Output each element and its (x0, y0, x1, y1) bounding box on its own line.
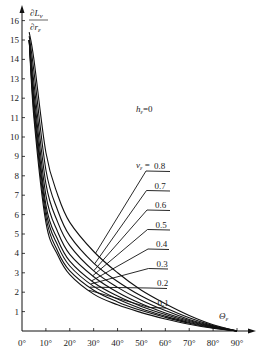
legend-label-0.8: 0.8 (154, 161, 166, 171)
leader-underline-0.1 (150, 308, 167, 309)
y-tick-label: 14 (10, 54, 20, 64)
y-axis-label-denominator: ∂rε (30, 22, 41, 34)
leader-underline-0.3 (149, 269, 169, 270)
leader-underline-0.7 (147, 191, 171, 192)
legend-label-0.5: 0.5 (156, 220, 168, 230)
series-curve-0.7 (29, 36, 237, 331)
y-tick-label: 1 (15, 307, 20, 317)
chart: 12345678910111213141516 0°10°20°30°40°50… (0, 0, 261, 358)
leader-line-0.6 (94, 210, 147, 271)
y-tick-label: 6 (15, 210, 20, 220)
leader-underline-0.6 (147, 210, 170, 211)
y-tick-label: 8 (15, 171, 20, 181)
legend-label-0.7: 0.7 (155, 181, 167, 191)
y-tick-label: 15 (10, 35, 20, 45)
x-tick-label: 70° (183, 338, 196, 348)
y-tick-label: 5 (15, 229, 20, 239)
x-tick-label: 20° (63, 338, 76, 348)
y-axis-label: ∂Lν ∂rε (29, 8, 48, 34)
leader-line-0.8 (96, 171, 146, 253)
y-tick-label: 11 (10, 113, 19, 123)
legend-leaders: 0.10.20.30.40.50.60.70.8 (89, 161, 170, 308)
y-tick-label: 7 (15, 190, 20, 200)
x-tick-label: 60° (159, 338, 172, 348)
curves (29, 32, 237, 331)
x-tick-label: 50° (135, 338, 148, 348)
leader-underline-0.5 (148, 230, 171, 231)
y-tick-label: 4 (15, 248, 20, 258)
y-tick-label: 3 (15, 268, 20, 278)
y-tick-label: 13 (10, 74, 20, 84)
legend-label-0.1: 0.1 (158, 298, 169, 308)
legend-prefix: νε = (136, 160, 150, 171)
x-axis-arrow-icon (248, 329, 256, 334)
leader-line-0.5 (93, 230, 148, 276)
y-tick-label: 12 (10, 93, 19, 103)
leader-underline-0.8 (146, 171, 170, 172)
x-tick-label: 0° (18, 338, 27, 348)
y-tick-label: 10 (10, 132, 20, 142)
x-tick-label: 30° (87, 338, 100, 348)
y-ticks: 12345678910111213141516 (10, 16, 25, 317)
legend-label-0.6: 0.6 (155, 200, 167, 210)
legend-label-0.3: 0.3 (157, 259, 169, 269)
annotation-h: hε=0 (136, 104, 153, 115)
legend-label-0.4: 0.4 (156, 239, 168, 249)
x-axis-label: Θε (219, 311, 229, 323)
leader-underline-0.4 (148, 249, 169, 250)
x-tick-label: 40° (111, 338, 124, 348)
x-tick-label: 10° (40, 338, 53, 348)
y-tick-label: 9 (15, 151, 20, 161)
series-curve-0.8 (29, 32, 237, 331)
legend-label-0.2: 0.2 (157, 278, 168, 288)
leader-line-0.2 (90, 287, 149, 288)
y-tick-label: 2 (15, 287, 20, 297)
y-axis-arrow-icon (20, 5, 25, 13)
x-tick-label: 90° (231, 338, 244, 348)
leader-underline-0.2 (149, 288, 167, 289)
y-tick-label: 16 (10, 16, 20, 26)
x-tick-label: 80° (207, 338, 220, 348)
y-axis-label-numerator: ∂Lν (30, 8, 43, 20)
